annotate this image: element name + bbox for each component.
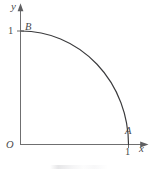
coordinate-diagram: y x O A B 1 1 [0,0,151,171]
y-axis-label: y [11,1,16,12]
origin-label: O [6,140,14,151]
y-axis-tick-label-one: 1 [8,26,13,37]
point-b-label: B [25,22,31,33]
point-a-label: A [125,126,131,137]
x-axis-tick-label-one: 1 [125,147,130,158]
quarter-circle-arc [21,31,129,145]
y-axis-arrowhead [18,3,24,11]
x-axis-label: x [139,143,144,154]
